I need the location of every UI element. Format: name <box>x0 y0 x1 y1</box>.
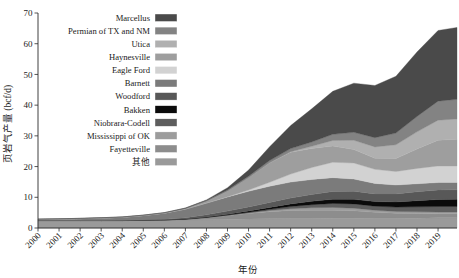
x-tick-label: 2002 <box>65 230 85 250</box>
x-tick-label: 2004 <box>107 230 127 250</box>
y-tick-label: 60 <box>24 39 34 49</box>
legend-label: Permian of TX and NM <box>68 26 150 36</box>
y-tick-label: 10 <box>24 192 34 202</box>
legend-label: Woodford <box>115 91 150 101</box>
y-tick-label: 70 <box>24 8 34 18</box>
chart-svg: 010203040506070 200020012002200320042005… <box>0 0 459 278</box>
legend-swatch <box>155 132 177 140</box>
legend: MarcellusPermian of TX and NMUticaHaynes… <box>68 13 177 167</box>
x-tick-label: 2011 <box>255 230 275 250</box>
legend-swatch <box>155 93 177 101</box>
x-tick-label: 2016 <box>360 230 380 250</box>
x-tick-label: 2008 <box>192 230 212 250</box>
x-tick-label: 2013 <box>297 230 317 250</box>
y-axis: 010203040506070 <box>24 8 39 233</box>
y-tick-label: 20 <box>24 162 34 172</box>
x-tick-label: 2014 <box>318 230 338 250</box>
legend-swatch <box>155 40 177 48</box>
legend-swatch <box>155 158 177 166</box>
x-tick-label: 2019 <box>423 230 443 250</box>
x-tick-label: 2015 <box>339 230 359 250</box>
y-axis-title: 页岩气产量 (bcf/d) <box>2 85 14 163</box>
x-tick-label: 2001 <box>44 230 64 250</box>
legend-swatch <box>155 106 177 114</box>
legend-swatch <box>155 14 177 22</box>
legend-label: Barnett <box>125 78 151 88</box>
x-tick-label: 2005 <box>128 230 148 250</box>
legend-label: Haynesville <box>109 52 150 62</box>
legend-swatch <box>155 66 177 74</box>
shale-gas-production-chart: 010203040506070 200020012002200320042005… <box>0 0 459 278</box>
x-tick-label: 2018 <box>402 230 422 250</box>
legend-label: Fayetteville <box>109 144 150 154</box>
x-tick-label: 2010 <box>234 230 254 250</box>
y-tick-label: 30 <box>24 131 34 141</box>
legend-label: Bakken <box>124 105 151 115</box>
legend-swatch <box>155 27 177 34</box>
legend-label: Mississippi of OK <box>87 131 151 141</box>
legend-swatch <box>155 80 177 88</box>
legend-swatch <box>155 145 177 153</box>
x-tick-label: 2003 <box>86 230 106 250</box>
legend-swatch <box>155 53 177 61</box>
y-tick-label: 0 <box>28 223 33 233</box>
x-tick-label: 2017 <box>381 230 401 250</box>
legend-label: Eagle Ford <box>112 65 151 75</box>
x-axis: 2000200120022003200420052006200720082009… <box>23 228 457 250</box>
legend-swatch <box>155 119 177 127</box>
x-tick-label: 2012 <box>276 230 296 250</box>
stacked-areas <box>38 27 457 228</box>
x-tick-label: 2006 <box>149 230 169 250</box>
x-tick-label: 2007 <box>171 230 191 250</box>
y-tick-label: 40 <box>24 100 34 110</box>
legend-label: Niobrara-Codell <box>94 118 151 128</box>
x-tick-label: 2000 <box>23 230 43 250</box>
legend-label: 其他 <box>132 156 150 167</box>
legend-label: Utica <box>131 39 150 49</box>
x-tick-label: 2009 <box>213 230 233 250</box>
legend-label: Marcellus <box>116 13 151 23</box>
x-axis-title: 年份 <box>238 264 258 275</box>
y-tick-label: 50 <box>24 70 34 80</box>
